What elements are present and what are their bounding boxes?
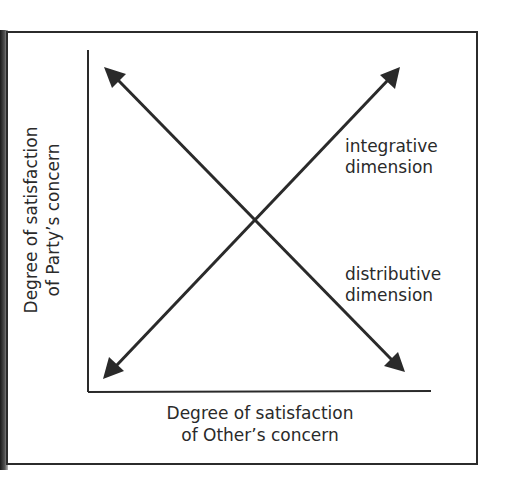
x-axis	[88, 391, 431, 392]
x-axis-label-line1: Degree of satisfaction	[167, 402, 354, 424]
y-axis-label-line1: Degree of satisfaction	[20, 127, 42, 314]
x-axis-label: Degree of satisfaction of Other’s concer…	[167, 402, 354, 446]
y-axis-label-line2: of Party’s concern	[42, 127, 64, 314]
y-axis-label: Degree of satisfaction of Party’s concer…	[20, 127, 64, 314]
integrative-label-line2: dimension	[345, 157, 438, 178]
integrative-dimension-label: integrative dimension	[345, 136, 438, 178]
distributive-dimension-label: distributive dimension	[345, 264, 441, 306]
integrative-label-line1: integrative	[345, 136, 438, 157]
x-axis-label-line2: of Other’s concern	[167, 424, 354, 446]
distributive-label-line2: dimension	[345, 285, 441, 306]
integrative-arrow	[116, 80, 388, 366]
distributive-label-line1: distributive	[345, 264, 441, 285]
